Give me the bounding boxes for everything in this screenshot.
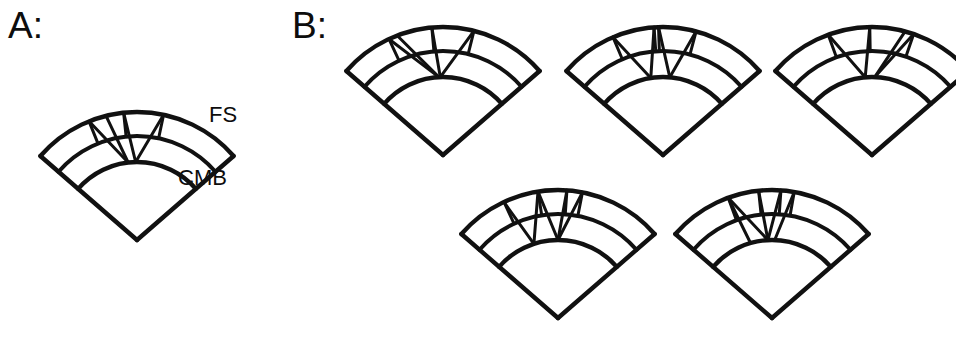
seismic-wedge-figure: A: B: FS CMB: [0, 0, 956, 338]
wedge-b-4-left-radius: [461, 234, 558, 318]
wedge-b-5-right-radius: [772, 234, 869, 318]
wedge-b-2-cmb-arc: [604, 77, 722, 104]
wedge-a-1-right-radius: [137, 156, 234, 240]
wedge-b-3-mid-arc: [794, 51, 951, 87]
wedge-b-4: [461, 190, 654, 318]
wedge-b-3-ray-1: [828, 35, 865, 78]
wedge-b-3-left-radius: [775, 71, 872, 155]
wedge-b-1-mid-arc: [365, 51, 522, 87]
wedge-b-4-cmb-arc: [499, 240, 617, 267]
wedge-b-2-mid-arc: [585, 51, 742, 87]
wedge-b-4-ray-2: [534, 192, 538, 244]
wedge-drawing-canvas: [0, 0, 956, 338]
wedge-b-1-cmb-arc: [384, 77, 502, 104]
wedge-b-1-left-radius: [346, 71, 443, 155]
wedge-b-3-cmb-arc: [813, 77, 931, 104]
wedge-a-1-cmb-arc: [78, 162, 196, 189]
wedge-b-1-right-radius: [443, 71, 540, 155]
wedge-b-2-ray-1: [613, 37, 651, 78]
wedge-b-5-cmb-arc: [713, 240, 831, 267]
wedge-b-4-right-radius: [558, 234, 655, 318]
wedge-a-1: [40, 112, 233, 240]
wedge-a-1-mid-arc: [59, 136, 216, 172]
wedge-b-3: [775, 27, 956, 155]
wedge-b-2-ray-2: [651, 27, 654, 78]
wedge-b-5: [675, 190, 868, 318]
wedge-b-3-right-radius: [872, 71, 956, 155]
wedge-a-1-left-radius: [40, 156, 137, 240]
wedge-b-2-left-radius: [566, 71, 663, 155]
wedge-b-5-left-radius: [675, 234, 772, 318]
wedge-a-1-ray-2: [89, 121, 128, 162]
wedge-b-4-ray-1: [504, 202, 534, 244]
wedge-b-2-right-radius: [663, 71, 760, 155]
wedge-b-2: [566, 27, 759, 155]
wedge-b-1: [346, 27, 539, 155]
